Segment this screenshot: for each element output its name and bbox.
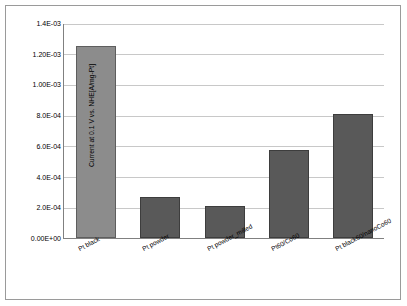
y-tick-label: 1.20E-03 bbox=[13, 51, 61, 59]
bar bbox=[333, 114, 373, 238]
y-axis-tick-labels: 0.00E+002.0E-044.0E-046.0E-048.0E-041.00… bbox=[9, 24, 61, 239]
y-tick-label: 4.0E-04 bbox=[13, 174, 61, 182]
y-tick-label: 0.00E+00 bbox=[13, 235, 61, 243]
y-tick-label: 1.00E-03 bbox=[13, 81, 61, 89]
plot-area: Current at 0.1 V vs. NHE[A/mg-Pt] bbox=[63, 24, 384, 239]
x-axis-tick-labels: Pt blackPt powderPt powder_milledPt60/Co… bbox=[63, 240, 393, 300]
chart-frame: 0.00E+002.0E-044.0E-046.0E-048.0E-041.00… bbox=[5, 5, 401, 300]
y-axis-title: Current at 0.1 V vs. NHE[A/mg-Pt] bbox=[88, 31, 95, 201]
bar bbox=[76, 46, 116, 238]
gridline bbox=[64, 24, 384, 25]
y-tick-label: 1.4E-03 bbox=[13, 20, 61, 28]
bar bbox=[140, 197, 180, 238]
plot-inner bbox=[64, 24, 384, 238]
y-tick-label: 6.0E-04 bbox=[13, 143, 61, 151]
y-tick-label: 8.0E-04 bbox=[13, 112, 61, 120]
y-tick-label: 2.0E-04 bbox=[13, 204, 61, 212]
bar bbox=[269, 150, 309, 238]
